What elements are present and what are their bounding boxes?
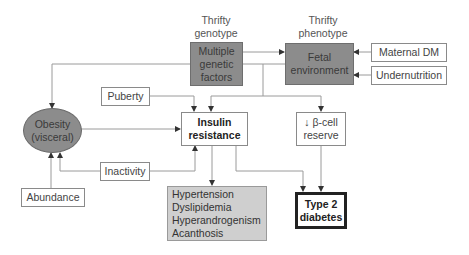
node-text: reserve: [303, 129, 338, 142]
node-text: Hypertension: [172, 188, 234, 201]
node-complications: Hypertension Dyslipidemia Hyperandrogeni…: [167, 186, 267, 241]
node-text: environment: [291, 64, 349, 77]
node-multiple-genetic-factors: Multiple genetic factors: [190, 42, 243, 86]
node-text: Multiple: [198, 45, 234, 58]
node-text: Insulin: [198, 116, 232, 129]
label-line: Thrifty: [292, 14, 354, 27]
node-text: Inactivity: [105, 165, 146, 178]
node-text: Undernutrition: [376, 69, 442, 82]
node-fetal-environment: Fetal environment: [285, 43, 354, 85]
node-text: Abundance: [26, 191, 79, 204]
node-puberty: Puberty: [101, 87, 150, 106]
label-line: genotype: [188, 27, 244, 40]
label-line: phenotype: [292, 27, 354, 40]
node-text: genetic: [200, 58, 234, 71]
node-text: Obesity: [35, 118, 71, 131]
node-text: Dyslipidemia: [172, 201, 232, 214]
node-inactivity: Inactivity: [100, 162, 150, 181]
node-text: Acanthosis: [172, 227, 223, 240]
node-maternal-dm: Maternal DM: [371, 43, 447, 62]
node-text: diabetes: [300, 211, 343, 224]
node-text: factors: [201, 71, 233, 84]
node-abundance: Abundance: [21, 188, 85, 207]
node-text: ↓ β-cell: [304, 116, 337, 129]
node-text: Hyperandrogenism: [172, 214, 261, 227]
node-text: Type 2: [305, 198, 337, 211]
node-text: Puberty: [107, 90, 143, 103]
node-beta-cell-reserve: ↓ β-cell reserve: [296, 112, 346, 146]
node-obesity-visceral: Obesity (visceral): [23, 108, 82, 153]
node-type-2-diabetes: Type 2 diabetes: [295, 192, 347, 229]
node-text: Maternal DM: [379, 46, 439, 59]
node-insulin-resistance: Insulin resistance: [181, 112, 248, 146]
label-line: Thrifty: [188, 14, 244, 27]
node-text: Fetal: [308, 51, 331, 64]
thrifty-genotype-label: Thrifty genotype: [188, 14, 244, 40]
node-undernutrition: Undernutrition: [371, 66, 447, 85]
node-text: (visceral): [31, 131, 74, 144]
thrifty-phenotype-label: Thrifty phenotype: [292, 14, 354, 40]
node-text: resistance: [189, 129, 241, 142]
